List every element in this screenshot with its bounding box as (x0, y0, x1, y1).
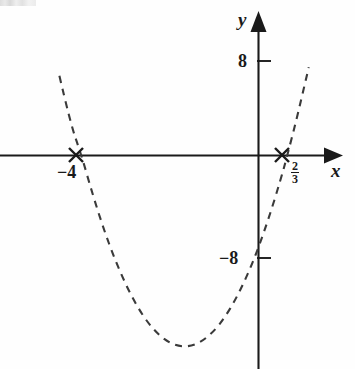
parabola-plot (0, 0, 355, 369)
x-root-label-negative-4: −4 (57, 163, 76, 181)
y-axis-label: y (238, 10, 246, 29)
graph-figure: y x 8 −8 −4 2 3 (0, 0, 355, 369)
y-axis-arrowhead (251, 11, 267, 32)
x-root-label-two-thirds: 2 3 (291, 160, 299, 185)
y-tick-label-negative-8: −8 (219, 249, 238, 267)
y-tick-label-8: 8 (238, 52, 247, 70)
fraction-denominator: 3 (291, 172, 299, 185)
fraction-numerator: 2 (291, 160, 299, 172)
parabola-curve (59, 67, 308, 346)
x-axis-label: x (331, 161, 341, 180)
